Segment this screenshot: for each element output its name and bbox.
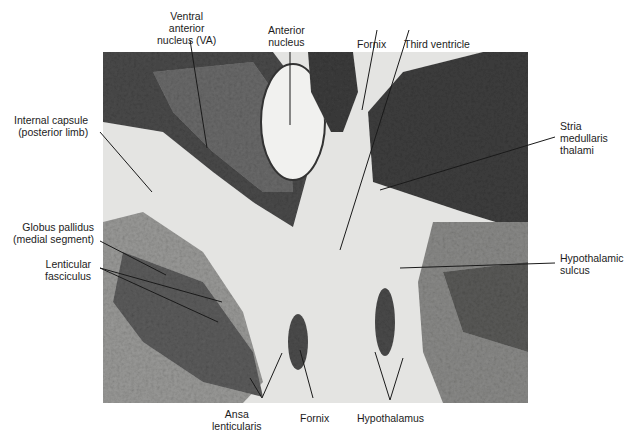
leader-lines [0, 0, 641, 440]
label-globus-pallidus: Globus pallidus (medial segment) [13, 221, 94, 245]
label-internal-capsule: Internal capsule (posterior limb) [14, 114, 88, 138]
label-stria-medullaris: Stria medullaris thalami [560, 120, 608, 156]
label-ventral-anterior-nucleus: Ventral anterior nucleus (VA) [157, 10, 216, 46]
label-fornix-top: Fornix [357, 38, 386, 50]
label-hypothalamic-sulcus: Hypothalamic sulcus [560, 252, 624, 276]
label-fornix-bottom: Fornix [300, 412, 329, 424]
label-anterior-nucleus: Anterior nucleus [268, 24, 305, 48]
label-third-ventricle: Third ventricle [404, 38, 470, 50]
label-ansa-lenticularis: Ansa lenticularis [212, 408, 262, 432]
label-lenticular-fasciculus: Lenticular fasciculus [45, 258, 91, 282]
label-hypothalamus: Hypothalamus [357, 412, 424, 424]
